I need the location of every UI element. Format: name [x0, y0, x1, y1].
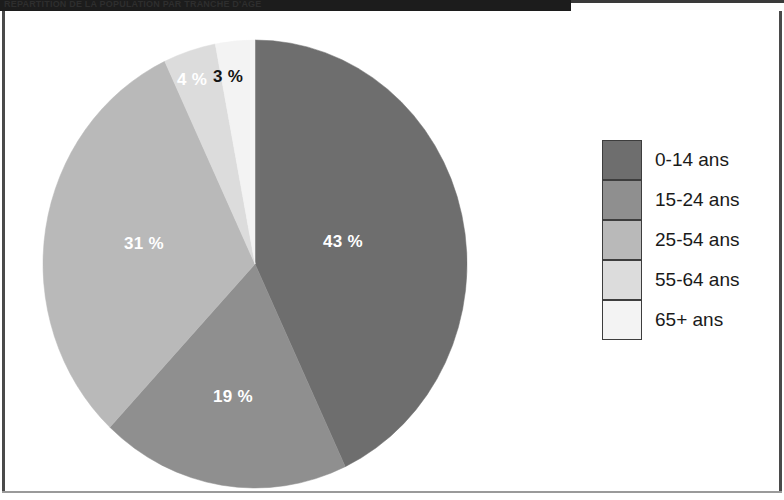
- legend-label: 0-14 ans: [655, 149, 729, 171]
- legend-item: 65+ ans: [602, 300, 782, 340]
- legend-label: 55-64 ans: [655, 269, 740, 291]
- chart-plot-area: 43 %19 %31 %4 %3 % 0-14 ans15-24 ans25-5…: [5, 12, 779, 491]
- pie-chart: 43 %19 %31 %4 %3 %: [38, 28, 472, 490]
- legend-item: 55-64 ans: [602, 260, 782, 300]
- legend-swatch: [602, 300, 642, 340]
- pie-slice-label: 43 %: [323, 232, 363, 252]
- legend-label: 15-24 ans: [655, 189, 740, 211]
- legend-swatch: [602, 220, 642, 260]
- legend-swatch: [602, 140, 642, 180]
- legend-item: 0-14 ans: [602, 140, 782, 180]
- frame-border-bottom: [2, 491, 782, 493]
- pie-slice-label: 31 %: [124, 234, 164, 254]
- header-title: REPARTITION DE LA POPULATION PAR TRANCHE…: [4, 0, 262, 10]
- legend-item: 25-54 ans: [602, 220, 782, 260]
- chart-legend: 0-14 ans15-24 ans25-54 ans55-64 ans65+ a…: [602, 140, 782, 340]
- header-bar: REPARTITION DE LA POPULATION PAR TRANCHE…: [0, 0, 571, 11]
- pie-slice-label: 19 %: [213, 387, 253, 407]
- legend-swatch: [602, 180, 642, 220]
- legend-item: 15-24 ans: [602, 180, 782, 220]
- pie-slice-label: 4 %: [177, 70, 207, 90]
- screenshot-root: REPARTITION DE LA POPULATION PAR TRANCHE…: [0, 0, 784, 500]
- pie-slice-label: 3 %: [213, 67, 243, 87]
- legend-swatch: [602, 260, 642, 300]
- pie-chart-svg: [38, 28, 472, 490]
- legend-label: 25-54 ans: [655, 229, 740, 251]
- legend-label: 65+ ans: [655, 309, 723, 331]
